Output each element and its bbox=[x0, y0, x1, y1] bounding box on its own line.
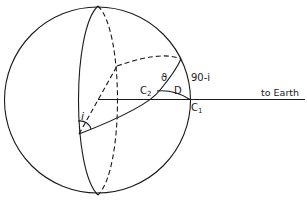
meridian-back bbox=[98, 6, 118, 195]
label-d: D bbox=[174, 85, 182, 96]
label-c2: C2 bbox=[140, 85, 151, 98]
label-to-earth: to Earth bbox=[261, 87, 299, 98]
great-circle-back bbox=[117, 56, 181, 66]
meridian-front bbox=[79, 6, 99, 195]
great-circle-front bbox=[79, 59, 181, 134]
label-theta: ϑ bbox=[161, 72, 167, 83]
label-i: i bbox=[81, 110, 84, 123]
sphere-diagram: i ϑ 90-i C2 D C1 to Earth bbox=[0, 0, 307, 204]
label-90-minus-i: 90-i bbox=[191, 72, 210, 83]
label-c1: C1 bbox=[191, 102, 202, 115]
